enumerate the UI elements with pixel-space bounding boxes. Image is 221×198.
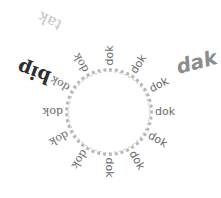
- radial-word: dok: [146, 130, 169, 150]
- radial-word: dok: [48, 128, 71, 147]
- radial-word: dok: [69, 148, 89, 171]
- dotted-ring-inner: [68, 71, 150, 153]
- radial-word: dok: [104, 158, 115, 178]
- large-word-bip: bip: [15, 57, 53, 86]
- radial-word: dok: [104, 45, 115, 65]
- radial-word: dok: [49, 74, 72, 94]
- radial-word: dok: [147, 76, 170, 95]
- radial-word: dok: [155, 106, 175, 117]
- large-word-tak: tak: [36, 8, 64, 32]
- radial-word: dok: [127, 149, 147, 172]
- radial-word: dok: [43, 106, 63, 117]
- radial-word: dok: [129, 53, 149, 76]
- word-circle-artwork: dokdokdokdokdokdokdokdokdokdokdokdok dak…: [0, 0, 221, 198]
- radial-word: dok: [71, 51, 91, 74]
- large-word-dak: dak: [174, 47, 219, 77]
